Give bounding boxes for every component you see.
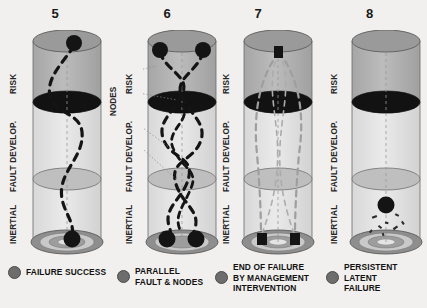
- legend-label: PERSISTENT LATENT FAILURE: [344, 262, 398, 294]
- zone-label-risk: RISK: [9, 62, 18, 106]
- cylinder-6: [143, 30, 221, 260]
- panel-8: 8 RISK FAULT DEVELOP. INERTIAL: [316, 0, 427, 308]
- cylinder-8: [347, 30, 425, 260]
- panel-6: 6 NODES RISK FAULT DEVELOP. INERTIAL: [105, 0, 217, 308]
- legend-label: END OF FAILURE BY MANAGEMENT INTERVENTIO…: [233, 262, 309, 294]
- legend-6: PARALLEL FAULT & NODES: [117, 266, 217, 287]
- marker-top: [152, 42, 168, 58]
- zone-label-inertial: INERTIAL: [125, 198, 134, 250]
- legend-dot-icon: [8, 266, 21, 279]
- marker-bottom: [257, 233, 267, 245]
- cylinder-svg: [347, 30, 425, 260]
- marker-bottom: [378, 197, 395, 214]
- legend-8: PERSISTENT LATENT FAILURE: [326, 262, 426, 294]
- marker-top: [66, 35, 82, 51]
- legend-7: END OF FAILURE BY MANAGEMENT INTERVENTIO…: [215, 262, 327, 294]
- nodes-annotation-label: NODES: [109, 72, 118, 116]
- panel-5: 5 RISK FAULT DEVELOP. INERTIAL: [0, 0, 110, 308]
- marker-bottom: [188, 231, 205, 248]
- marker-bottom: [290, 233, 300, 245]
- zone-label-inertial: INERTIAL: [9, 198, 18, 250]
- zone-label-inertial: INERTIAL: [330, 198, 339, 250]
- zone-label-risk: RISK: [222, 62, 231, 106]
- zone-label-inertial: INERTIAL: [222, 198, 231, 250]
- marker-bottom: [159, 231, 176, 248]
- figure-canvas: 5 RISK FAULT DEVELOP. INERTIAL: [0, 0, 427, 308]
- cylinder-svg: [239, 30, 317, 260]
- marker-bottom: [64, 231, 81, 248]
- legend-dot-icon: [215, 271, 228, 284]
- zone-label-risk: RISK: [330, 62, 339, 106]
- cylinder-5: [28, 30, 106, 260]
- cylinder-svg: [143, 30, 221, 260]
- zone-label-fault-develop: FAULT DEVELOP.: [125, 118, 134, 194]
- legend-dot-icon: [326, 271, 339, 284]
- legend-label: FAILURE SUCCESS: [26, 267, 106, 278]
- legend-label: PARALLEL FAULT & NODES: [135, 266, 203, 287]
- zone-label-fault-develop: FAULT DEVELOP.: [9, 118, 18, 194]
- panel-number: 8: [314, 6, 425, 21]
- marker-top: [195, 42, 211, 58]
- legend-dot-icon: [117, 270, 130, 283]
- legend-5: FAILURE SUCCESS: [8, 266, 112, 279]
- zone-label-risk: RISK: [125, 62, 134, 106]
- cylinder-7: [239, 30, 317, 260]
- zone-label-fault-develop: FAULT DEVELOP.: [222, 118, 231, 194]
- zone-label-fault-develop: FAULT DEVELOP.: [330, 118, 339, 194]
- marker-top: [274, 46, 283, 58]
- panel-number: 7: [204, 6, 312, 21]
- panel-number: 5: [0, 6, 110, 21]
- cylinder-svg: [28, 30, 106, 260]
- panel-7: 7 RISK FAULT DEVELOP. INERTIAL: [212, 0, 320, 308]
